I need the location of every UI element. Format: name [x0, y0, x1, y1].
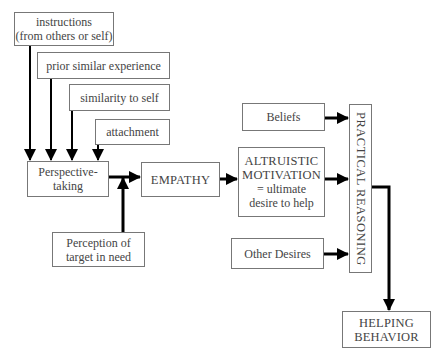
node-instructions: instructions(from others or self): [14, 12, 114, 46]
beliefs-label: Beliefs: [267, 110, 301, 124]
perception-line2: target in need: [66, 250, 131, 264]
altruistic-line2: MOTIVATION: [242, 168, 321, 182]
node-attachment: attachment: [95, 119, 170, 145]
perception-line1: Perception of: [66, 236, 131, 250]
helping-line1: HELPING: [354, 316, 419, 330]
instructions-line1: instructions: [16, 15, 113, 29]
node-perspective-taking: Perspective-taking: [27, 161, 109, 197]
attachment-label: attachment: [106, 125, 159, 139]
altruistic-line4: desire to help: [242, 196, 321, 210]
perspective-line2: taking: [38, 179, 97, 193]
node-altruistic-motivation: ALTRUISTIC MOTIVATION = ultimate desire …: [238, 147, 325, 217]
node-helping-behavior: HELPINGBEHAVIOR: [342, 311, 431, 348]
similarity-label: similarity to self: [80, 91, 159, 105]
altruistic-line3: = ultimate: [242, 182, 321, 196]
node-practical-reasoning: PRACTICAL REASONING: [349, 104, 372, 273]
empathy-label: EMPATHY: [151, 173, 210, 187]
node-empathy: EMPATHY: [141, 162, 220, 197]
instructions-line2: (from others or self): [16, 29, 113, 43]
node-perception: Perception oftarget in need: [52, 232, 145, 267]
practical-reasoning-label: PRACTICAL REASONING: [354, 112, 368, 266]
altruistic-line1: ALTRUISTIC: [242, 154, 321, 168]
edge-reasoning-to-helping: [372, 187, 389, 310]
node-beliefs: Beliefs: [242, 103, 325, 131]
other-desires-label: Other Desires: [244, 247, 310, 261]
prior-experience-label: prior similar experience: [46, 59, 161, 73]
helping-line2: BEHAVIOR: [354, 330, 419, 344]
node-similarity: similarity to self: [69, 84, 170, 111]
node-prior-experience: prior similar experience: [37, 52, 170, 79]
node-other-desires: Other Desires: [231, 238, 324, 269]
perspective-line1: Perspective-: [38, 165, 97, 179]
